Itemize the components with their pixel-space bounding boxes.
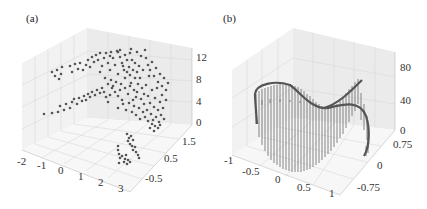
panel-b-z-ticks: 80 40 0 — [400, 61, 412, 136]
svg-text:0: 0 — [196, 116, 202, 128]
svg-text:1.5: 1.5 — [182, 135, 196, 147]
panel-b: (b) — [223, 12, 413, 199]
panel-a-label: (a) — [26, 12, 39, 25]
svg-text:-1: -1 — [224, 154, 233, 166]
svg-text:-0.5: -0.5 — [145, 172, 163, 184]
svg-text:80: 80 — [400, 61, 412, 73]
svg-text:40: 40 — [400, 94, 412, 106]
figure: (a) — [0, 0, 427, 209]
svg-text:1: 1 — [78, 170, 84, 182]
svg-text:0: 0 — [400, 124, 406, 136]
svg-text:8: 8 — [196, 73, 202, 85]
svg-text:0.75: 0.75 — [393, 138, 413, 150]
panel-a: (a) — [17, 12, 207, 194]
svg-text:2: 2 — [98, 176, 104, 188]
svg-text:4: 4 — [196, 95, 202, 107]
svg-text:0: 0 — [377, 159, 383, 171]
svg-text:12: 12 — [196, 51, 207, 63]
svg-text:-0.75: -0.75 — [357, 181, 380, 193]
panel-a-z-ticks: 12 8 4 0 — [196, 51, 207, 128]
panel-b-label: (b) — [223, 12, 236, 25]
svg-text:0.5: 0.5 — [297, 181, 311, 193]
svg-text:0.5: 0.5 — [164, 152, 178, 164]
svg-text:-0.5: -0.5 — [242, 165, 260, 177]
svg-text:1: 1 — [329, 187, 335, 199]
panel-a-right-pane — [87, 28, 192, 125]
svg-text:0: 0 — [58, 164, 64, 176]
svg-text:3: 3 — [118, 182, 124, 194]
svg-text:0: 0 — [275, 173, 281, 185]
svg-text:-1: -1 — [37, 159, 46, 171]
svg-text:-2: -2 — [17, 155, 26, 167]
panel-b-right-pane — [293, 28, 395, 130]
